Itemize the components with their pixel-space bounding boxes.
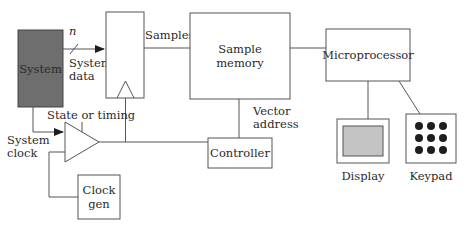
keypad-block: Keypad xyxy=(406,114,456,183)
system-block: System xyxy=(18,30,63,107)
display-label: Display xyxy=(341,169,385,183)
system-data-label-1: System xyxy=(69,56,112,70)
sample-memory-label-1: Sample xyxy=(218,42,262,56)
clock-gen-label-2: gen xyxy=(88,197,110,211)
display-block: Display xyxy=(337,119,389,183)
clock-gen-wire xyxy=(49,152,78,197)
display-screen-icon xyxy=(343,126,383,156)
clock-gen-block: Clock gen xyxy=(78,175,120,219)
controller-block: Controller xyxy=(208,138,272,168)
sample-register xyxy=(106,12,144,98)
microprocessor-label: Microprocessor xyxy=(322,48,414,62)
sample-memory-label-2: memory xyxy=(216,56,264,70)
processor-to-keypad-wire xyxy=(399,81,420,114)
block-diagram: System n System data Samples Sample memo… xyxy=(0,0,466,237)
sample-memory-block: Sample memory xyxy=(190,13,290,99)
system-data-label-2: data xyxy=(69,69,95,83)
bus-width-label: n xyxy=(69,24,76,38)
keypad-label: Keypad xyxy=(409,169,453,183)
samples-label: Samples xyxy=(145,28,194,42)
clock-gen-label-1: Clock xyxy=(83,183,117,197)
vector-address-label-2: address xyxy=(253,117,299,131)
keypad-keys-icon xyxy=(415,122,447,154)
controller-label: Controller xyxy=(210,146,270,160)
system-clock-label-1: System xyxy=(7,133,50,147)
microprocessor-block: Microprocessor xyxy=(322,29,414,81)
vector-address-label-1: Vector xyxy=(252,104,291,118)
system-clock-label-2: clock xyxy=(7,146,38,160)
state-timing-label: State or timing xyxy=(47,108,136,122)
system-label: System xyxy=(19,62,62,76)
